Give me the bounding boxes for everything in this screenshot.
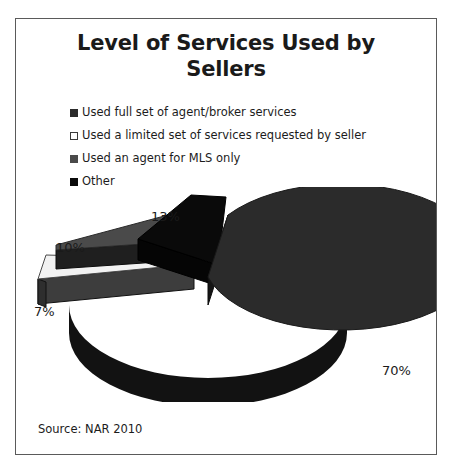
pie-slice-70-top bbox=[208, 187, 436, 330]
pie-slice-7-side-left bbox=[38, 279, 46, 307]
legend-label-mls-only: Used an agent for MLS only bbox=[82, 153, 240, 165]
legend-swatch-mls-only bbox=[70, 155, 78, 163]
chart-title-line-1: Level of Services Used by bbox=[16, 31, 436, 57]
source-note: Source: NAR 2010 bbox=[38, 422, 142, 436]
chart-title: Level of Services Used by Sellers bbox=[16, 31, 436, 82]
legend-item-full-service: Used full set of agent/broker services bbox=[70, 102, 410, 124]
legend-item-limited-service: Used a limited set of services requested… bbox=[70, 125, 410, 147]
chart-frame: Level of Services Used by Sellers Used f… bbox=[15, 18, 437, 455]
pie-data-label-7: 7% bbox=[34, 305, 55, 318]
chart-title-line-2: Sellers bbox=[16, 57, 436, 83]
pie-data-label-10: 10% bbox=[56, 241, 85, 254]
pie-data-label-70: 70% bbox=[382, 364, 411, 377]
pie-chart-svg bbox=[16, 187, 436, 402]
legend-swatch-full-service bbox=[70, 109, 78, 117]
legend-label-full-service: Used full set of agent/broker services bbox=[82, 107, 297, 119]
legend-swatch-other bbox=[70, 178, 78, 186]
pie-data-label-13: 13% bbox=[151, 210, 180, 223]
legend-item-mls-only: Used an agent for MLS only bbox=[70, 148, 410, 170]
legend-swatch-limited-service bbox=[70, 132, 78, 140]
legend-label-limited-service: Used a limited set of services requested… bbox=[82, 130, 366, 142]
pie-chart-area bbox=[16, 187, 436, 402]
chart-legend: Used full set of agent/broker services U… bbox=[70, 102, 410, 194]
